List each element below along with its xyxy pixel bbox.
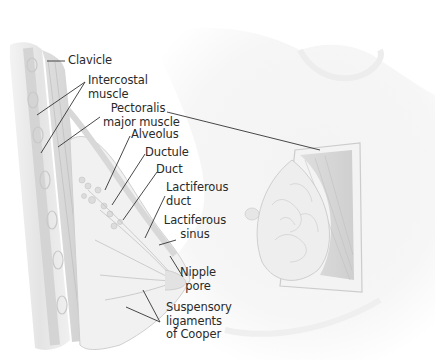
label-intercostal-muscle: Intercostal muscle — [88, 74, 148, 101]
label-duct-line-1: Duct — [156, 163, 183, 177]
label-suspensory-ligaments: Suspensory ligaments of Cooper — [166, 301, 232, 342]
label-lactiferous-duct-line-2: duct — [166, 195, 228, 209]
label-lactiferous-duct-line-1: Lactiferous — [166, 181, 228, 195]
label-cooper-line-3: of Cooper — [166, 328, 232, 342]
label-intercostal-line-2: muscle — [88, 88, 148, 102]
label-nipple-pore: Nipple pore — [178, 266, 218, 293]
label-intercostal-line-1: Intercostal — [88, 74, 148, 88]
label-duct: Duct — [156, 163, 183, 177]
label-alveolus-line-1: Alveolus — [131, 128, 179, 142]
label-nipple-pore-line-1: Nipple — [178, 266, 218, 280]
inset-nipple — [245, 208, 259, 220]
label-cooper-line-1: Suspensory — [166, 301, 232, 315]
label-cooper-line-2: ligaments — [166, 315, 232, 329]
label-lactiferous-sinus: Lactiferous sinus — [160, 214, 230, 241]
anatomy-figure: Clavicle Intercostal muscle Pectoralis m… — [0, 0, 435, 360]
label-lactiferous-sinus-line-2: sinus — [160, 228, 230, 242]
label-nipple-pore-line-2: pore — [178, 280, 218, 294]
label-ductule-line-1: Ductule — [145, 146, 189, 160]
label-lactiferous-duct: Lactiferous duct — [166, 181, 228, 208]
label-pectoralis-line-1: Pectoralis — [103, 102, 173, 116]
label-clavicle: Clavicle — [68, 54, 112, 68]
label-alveolus: Alveolus — [131, 128, 179, 142]
label-ductule: Ductule — [145, 146, 189, 160]
label-lactiferous-sinus-line-1: Lactiferous — [160, 214, 230, 228]
label-pectoralis-major-muscle: Pectoralis major muscle — [103, 102, 173, 129]
label-clavicle-line-1: Clavicle — [68, 54, 112, 68]
